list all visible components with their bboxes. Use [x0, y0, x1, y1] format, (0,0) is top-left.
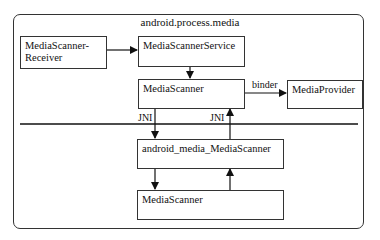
- scanner-native-label: MediaScanner: [142, 194, 203, 205]
- receiver-label-line1: MediaScanner-: [25, 40, 102, 52]
- box-mediascanner-service: MediaScannerService: [138, 36, 245, 67]
- receiver-label-line2: Receiver: [25, 52, 102, 64]
- box-mediaprovider: MediaProvider: [287, 80, 363, 109]
- provider-label: MediaProvider: [292, 84, 355, 95]
- jni-up-label: JNI: [210, 112, 224, 123]
- service-label: MediaScannerService: [143, 40, 235, 51]
- jni-down-label: JNI: [138, 112, 152, 123]
- box-android-media-mediascanner: android_media_MediaScanner: [137, 139, 284, 169]
- binder-label: binder: [252, 79, 278, 90]
- box-mediascanner-native: MediaScanner: [137, 190, 284, 220]
- jni-bridge-label: android_media_MediaScanner: [142, 143, 271, 154]
- box-mediascanner-receiver: MediaScanner- Receiver: [20, 36, 107, 69]
- scanner-java-label: MediaScanner: [143, 83, 204, 94]
- box-mediascanner-java: MediaScanner: [138, 79, 245, 109]
